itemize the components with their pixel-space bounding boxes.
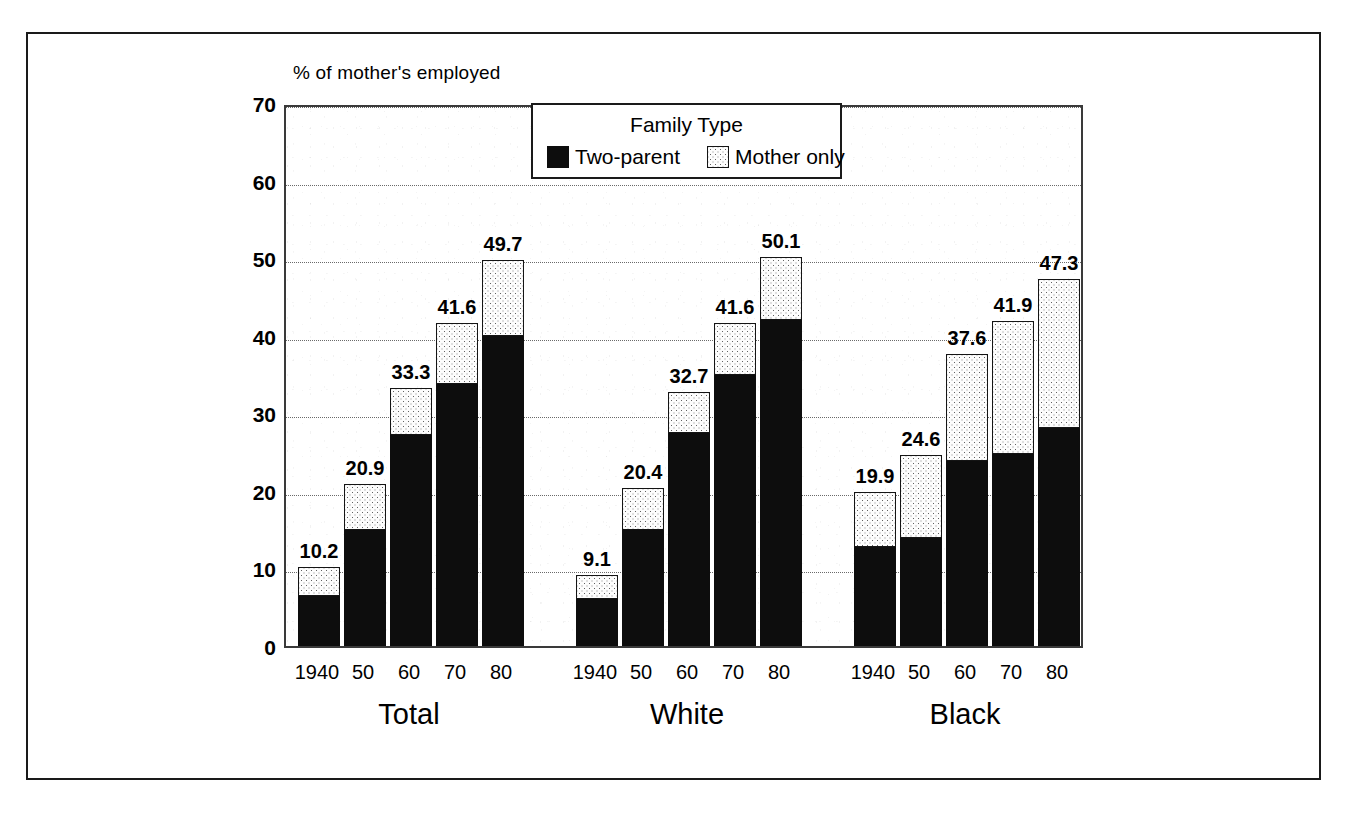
bar-segment-mother-only <box>854 492 896 547</box>
bar-segment-two-parent <box>298 596 340 646</box>
bar-value-label: 33.3 <box>392 362 431 382</box>
bar-total-80: 49.7 <box>482 260 524 646</box>
y-tick-label: 50 <box>232 249 276 270</box>
bar-segment-mother-only <box>576 575 618 598</box>
bar-value-label: 24.6 <box>902 429 941 449</box>
plot-area: 10.220.933.341.649.79.120.432.741.650.11… <box>284 105 1083 648</box>
bar-segment-two-parent <box>854 547 896 646</box>
x-tick-label: 80 <box>1046 662 1068 682</box>
y-tick-label: 60 <box>232 172 276 193</box>
group-label-white: White <box>650 700 724 729</box>
x-tick-label: 70 <box>444 662 466 682</box>
legend-label-mother-only: Mother only <box>735 145 845 169</box>
bar-black-70: 41.9 <box>992 321 1034 646</box>
bar-segment-two-parent <box>946 461 988 646</box>
bar-segment-two-parent <box>900 538 942 646</box>
x-tick-label: 60 <box>676 662 698 682</box>
bar-value-label: 9.1 <box>583 549 611 569</box>
bar-total-70: 41.6 <box>436 323 478 646</box>
group-label-black: Black <box>930 700 1001 729</box>
bar-segment-mother-only <box>344 484 386 530</box>
group-label-total: Total <box>378 700 439 729</box>
gridline <box>286 262 1081 263</box>
legend: Family Type Two-parent Mother only <box>531 103 842 179</box>
bar-value-label: 37.6 <box>948 328 987 348</box>
x-tick-label: 60 <box>398 662 420 682</box>
x-tick-label: 60 <box>954 662 976 682</box>
bar-segment-mother-only <box>482 260 524 335</box>
bar-segment-mother-only <box>298 567 340 596</box>
bar-black-1940: 19.9 <box>854 492 896 646</box>
bar-white-50: 20.4 <box>622 488 664 646</box>
bar-white-1940: 9.1 <box>576 575 618 646</box>
y-tick-label: 40 <box>232 327 276 348</box>
bar-white-60: 32.7 <box>668 392 710 646</box>
bar-value-label: 41.9 <box>994 295 1033 315</box>
bar-segment-two-parent <box>714 375 756 647</box>
bar-segment-two-parent <box>1038 428 1080 646</box>
x-tick-label: 50 <box>908 662 930 682</box>
x-tick-label: 1940 <box>573 662 618 682</box>
bar-segment-two-parent <box>576 599 618 646</box>
y-tick-label: 10 <box>232 559 276 580</box>
bar-value-label: 49.7 <box>484 234 523 254</box>
bar-segment-two-parent <box>622 530 664 646</box>
bar-segment-two-parent <box>482 336 524 646</box>
bar-segment-mother-only <box>900 455 942 538</box>
y-tick-label: 30 <box>232 404 276 425</box>
y-tick-label: 70 <box>232 94 276 115</box>
bar-segment-mother-only <box>946 354 988 460</box>
y-tick-label: 0 <box>232 637 276 658</box>
bar-total-60: 33.3 <box>390 388 432 646</box>
bar-segment-mother-only <box>436 323 478 384</box>
bar-value-label: 20.9 <box>346 458 385 478</box>
legend-label-two-parent: Two-parent <box>575 145 680 169</box>
bar-segment-two-parent <box>436 384 478 646</box>
x-tick-label: 50 <box>630 662 652 682</box>
legend-entry-two-parent: Two-parent <box>547 145 680 169</box>
y-axis-label: % of mother's employed <box>293 62 501 84</box>
y-tick-label: 20 <box>232 482 276 503</box>
legend-swatch-mother-only-icon <box>707 146 729 168</box>
bar-black-60: 37.6 <box>946 354 988 646</box>
bar-segment-two-parent <box>760 320 802 646</box>
bar-segment-mother-only <box>668 392 710 432</box>
bar-value-label: 10.2 <box>300 541 339 561</box>
x-tick-label: 70 <box>722 662 744 682</box>
bar-value-label: 50.1 <box>762 231 801 251</box>
x-tick-label: 80 <box>490 662 512 682</box>
bar-value-label: 41.6 <box>716 297 755 317</box>
bar-segment-two-parent <box>992 454 1034 646</box>
bar-segment-two-parent <box>390 435 432 646</box>
bar-value-label: 47.3 <box>1040 253 1079 273</box>
bar-value-label: 41.6 <box>438 297 477 317</box>
bar-chart: % of mother's employed 010203040506070 1… <box>0 0 1353 819</box>
bar-value-label: 19.9 <box>856 466 895 486</box>
bar-value-label: 20.4 <box>624 462 663 482</box>
x-tick-label: 70 <box>1000 662 1022 682</box>
bar-black-50: 24.6 <box>900 455 942 646</box>
bar-segment-mother-only <box>1038 279 1080 428</box>
bar-segment-two-parent <box>344 530 386 646</box>
bar-segment-mother-only <box>714 323 756 374</box>
gridline <box>286 185 1081 186</box>
bar-total-50: 20.9 <box>344 484 386 646</box>
bar-segment-mother-only <box>760 257 802 320</box>
x-tick-label: 80 <box>768 662 790 682</box>
bar-black-80: 47.3 <box>1038 279 1080 646</box>
bar-segment-mother-only <box>390 388 432 435</box>
bar-segment-mother-only <box>622 488 664 530</box>
bar-white-80: 50.1 <box>760 257 802 646</box>
x-tick-label: 1940 <box>295 662 340 682</box>
bar-segment-two-parent <box>668 433 710 646</box>
bar-total-1940: 10.2 <box>298 567 340 646</box>
y-axis-tick-labels: 010203040506070 <box>228 105 276 648</box>
legend-title: Family Type <box>533 113 840 137</box>
bar-white-70: 41.6 <box>714 323 756 646</box>
bar-value-label: 32.7 <box>670 366 709 386</box>
chart-page: % of mother's employed 010203040506070 1… <box>0 0 1353 819</box>
x-tick-label: 50 <box>352 662 374 682</box>
bar-segment-mother-only <box>992 321 1034 454</box>
legend-swatch-two-parent-icon <box>547 146 569 168</box>
legend-entry-mother-only: Mother only <box>707 145 845 169</box>
